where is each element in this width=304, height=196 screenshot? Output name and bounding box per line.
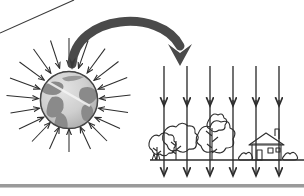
bottom-divider-bar [0,184,304,187]
greenhouse-effect-illustration [0,0,304,196]
diagram-canvas: Solar radiation absorbed by Earth and re… [0,0,304,196]
bottom-divider-highlight [0,187,304,188]
